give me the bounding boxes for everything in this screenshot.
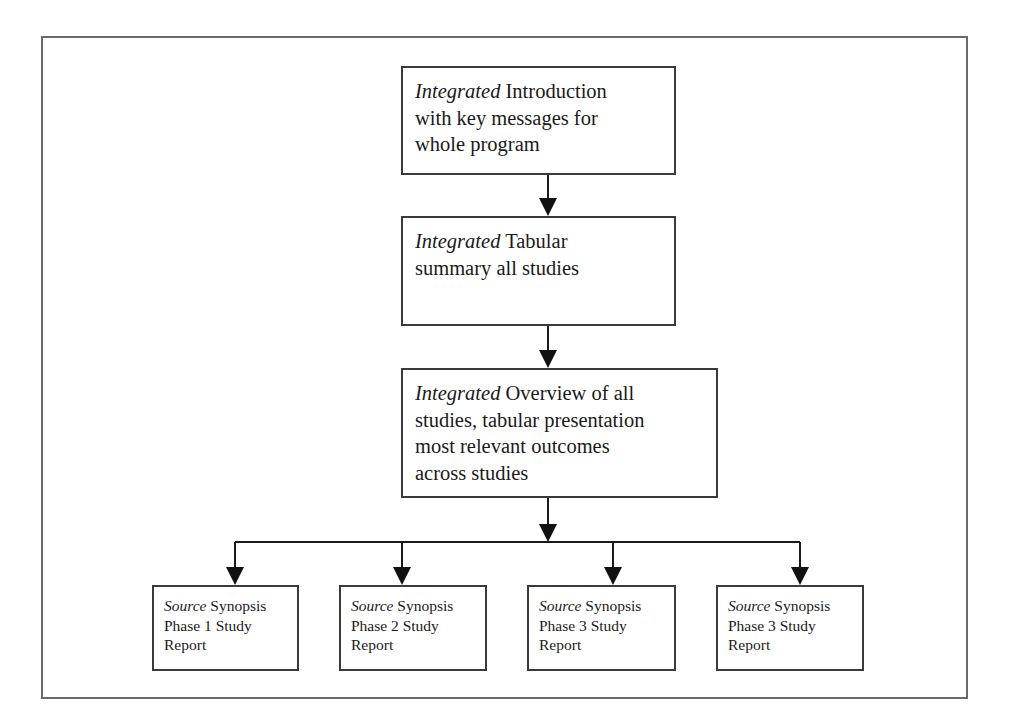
node-source-synopsis-phase3-b: Source Synopsis Phase 3 Study Report [716, 585, 864, 671]
node-integrated-introduction: Integrated Introduction with key message… [401, 66, 676, 175]
node-prefix: Source [164, 597, 206, 614]
node-text: Overview of all [500, 382, 634, 404]
node-integrated-tabular-summary: Integrated Tabular summary all studies [401, 216, 676, 326]
node-text: with key messages for [415, 107, 598, 129]
node-text: Report [728, 636, 770, 653]
node-source-synopsis-phase3-a: Source Synopsis Phase 3 Study Report [527, 585, 676, 671]
arrowhead-icon [791, 567, 809, 585]
node-prefix: Integrated [415, 230, 500, 252]
node-text: across studies [415, 462, 528, 484]
node-source-synopsis-phase1: Source Synopsis Phase 1 Study Report [152, 585, 299, 671]
node-text: whole program [415, 133, 540, 155]
node-text: Report [164, 636, 206, 653]
arrowhead-icon [393, 567, 411, 585]
arrowhead-icon [539, 524, 557, 542]
node-text: Synopsis [206, 597, 266, 614]
node-text: Synopsis [581, 597, 641, 614]
node-prefix: Source [539, 597, 581, 614]
node-text: Phase 3 Study [539, 617, 627, 634]
arrowhead-icon [539, 198, 557, 216]
node-prefix: Integrated [415, 382, 500, 404]
node-text: Phase 3 Study [728, 617, 816, 634]
node-prefix: Integrated [415, 80, 500, 102]
node-prefix: Source [728, 597, 770, 614]
node-text: studies, tabular presentation [415, 409, 644, 431]
node-text: Report [539, 636, 581, 653]
node-prefix: Source [351, 597, 393, 614]
node-text: Phase 2 Study [351, 617, 439, 634]
arrowhead-icon [604, 567, 622, 585]
arrowhead-icon [226, 567, 244, 585]
node-text: Synopsis [770, 597, 830, 614]
node-text: summary all studies [415, 257, 579, 279]
node-text: Report [351, 636, 393, 653]
node-text: most relevant outcomes [415, 435, 610, 457]
node-text: Phase 1 Study [164, 617, 252, 634]
node-source-synopsis-phase2: Source Synopsis Phase 2 Study Report [339, 585, 487, 671]
node-text: Synopsis [393, 597, 453, 614]
node-integrated-overview: Integrated Overview of all studies, tabu… [401, 368, 718, 498]
arrowhead-icon [539, 350, 557, 368]
node-text: Introduction [500, 80, 606, 102]
node-text: Tabular [500, 230, 567, 252]
